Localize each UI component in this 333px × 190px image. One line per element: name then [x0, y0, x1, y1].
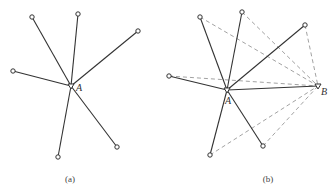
- endpoint-node: [115, 145, 119, 149]
- endpoint-node: [56, 155, 60, 159]
- spoke-edge: [32, 17, 71, 86]
- endpoint-node: [303, 23, 307, 27]
- spoke-edge: [71, 86, 117, 147]
- endpoint-node: [30, 15, 34, 19]
- spoke-edge: [71, 14, 78, 86]
- figure-canvas: A(a) AB(b): [0, 0, 333, 190]
- endpoint-node: [240, 10, 244, 14]
- spoke-edge: [227, 25, 305, 90]
- endpoint-node: [76, 12, 80, 16]
- dashed-link-to-b: [200, 17, 318, 86]
- spoke-edge: [13, 71, 71, 86]
- endpoint-node: [136, 29, 140, 33]
- panel-caption: (b): [263, 174, 274, 184]
- spoke-edge: [58, 86, 71, 157]
- dashed-link-to-b: [305, 25, 318, 86]
- hub-label-a: A: [224, 95, 232, 106]
- spoke-edge: [227, 90, 263, 146]
- endpoint-node: [167, 74, 171, 78]
- panel-a: A(a): [11, 12, 140, 184]
- panel-b: AB(b): [167, 10, 327, 184]
- endpoint-node: [261, 144, 265, 148]
- spoke-edge: [227, 12, 242, 90]
- endpoint-node: [208, 153, 212, 157]
- hub-label-b: B: [321, 86, 327, 97]
- edge-a-to-b: [227, 86, 318, 90]
- hub-label-a: A: [75, 82, 83, 93]
- panel-caption: (a): [65, 174, 75, 184]
- endpoint-node: [11, 69, 15, 73]
- spoke-edge: [71, 31, 138, 86]
- endpoint-node: [198, 15, 202, 19]
